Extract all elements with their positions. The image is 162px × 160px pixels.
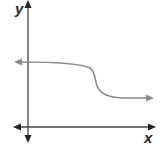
- curve-right-arrow-icon: [146, 95, 154, 102]
- y-axis-down-arrow-icon: [25, 135, 32, 143]
- y-axis-up-arrow-icon: [25, 0, 32, 8]
- coordinate-graph: y x: [0, 0, 162, 160]
- x-axis-left-arrow-icon: [13, 124, 21, 131]
- curve-left-arrow-icon: [14, 59, 22, 66]
- x-axis: [13, 124, 156, 131]
- x-axis-label: x: [143, 129, 153, 146]
- y-axis-label: y: [14, 0, 24, 17]
- y-axis: [25, 0, 32, 143]
- function-curve: [14, 59, 154, 102]
